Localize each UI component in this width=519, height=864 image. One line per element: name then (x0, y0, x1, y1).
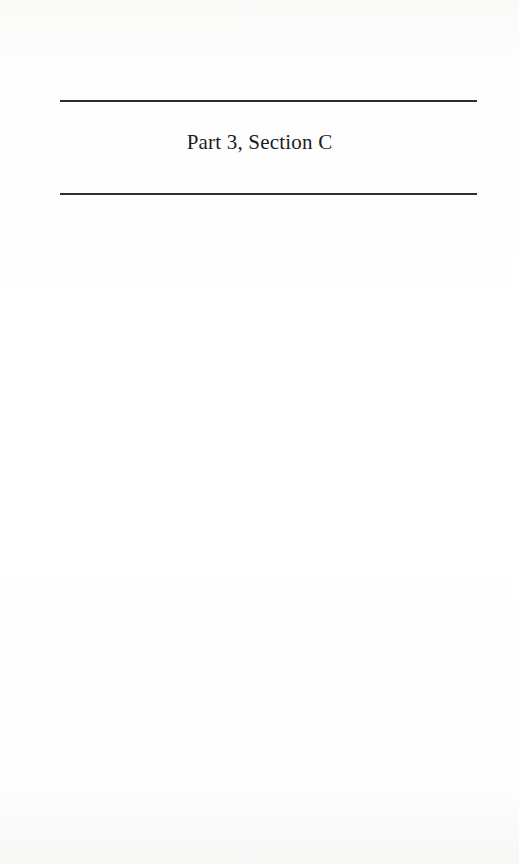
top-rule-divider (60, 100, 477, 102)
section-heading: Part 3, Section C (0, 129, 519, 155)
book-page: Part 3, Section C (0, 0, 519, 864)
bottom-rule-divider (60, 193, 477, 195)
